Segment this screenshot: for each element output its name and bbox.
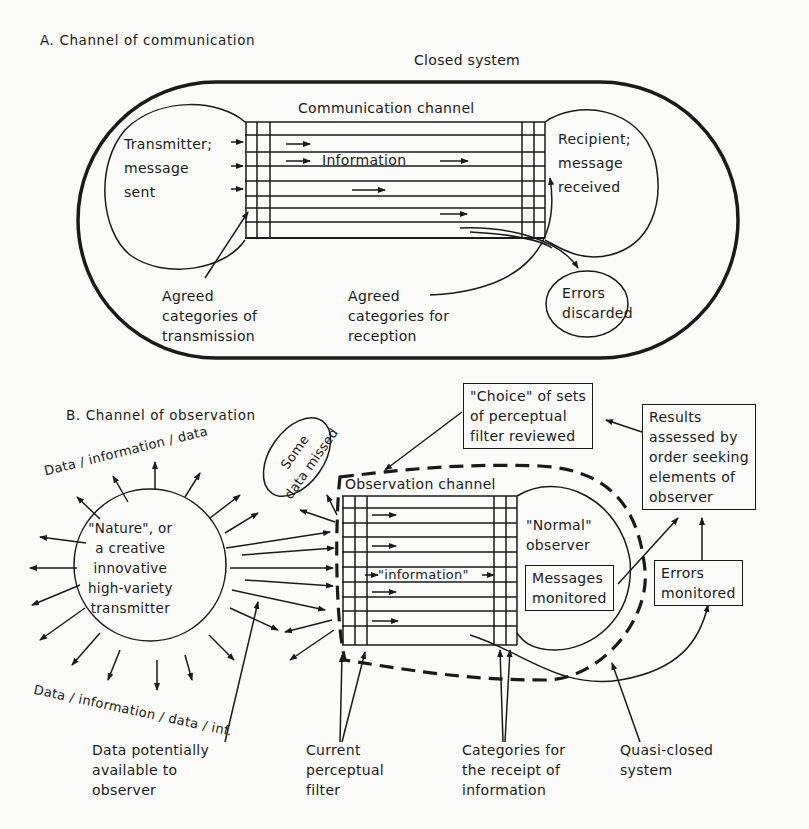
communication-channel-label: Communication channel	[298, 98, 475, 118]
quasi-closed-label: Quasi-closed system	[620, 740, 713, 780]
normal-observer-label: "Normal" observer	[526, 515, 592, 555]
closed-system-label: Closed system	[414, 50, 520, 70]
choice-reviewed-box: "Choice" of sets of perceptual filter re…	[463, 383, 593, 449]
errors-discarded-label: Errors discarded	[562, 283, 633, 323]
categories-receipt-label: Categories for the receipt of informatio…	[462, 740, 565, 800]
transmitter-label: Transmitter; message sent	[124, 132, 212, 204]
information-label: Information	[322, 150, 406, 170]
current-filter-label: Current perceptual filter	[306, 740, 384, 800]
part-b-title: B. Channel of observation	[66, 405, 256, 425]
observation-information-label: "information"	[378, 565, 469, 585]
messages-monitored-box: Messages monitored	[525, 565, 614, 611]
results-assessed-box: Results assessed by order seeking elemen…	[642, 404, 756, 510]
agreed-reception-label: Agreed categories for reception	[348, 286, 449, 346]
agreed-transmission-label: Agreed categories of transmission	[162, 286, 257, 346]
errors-monitored-box: Errors monitored	[654, 560, 743, 606]
recipient-label: Recipient; message received	[558, 127, 631, 199]
nature-label: "Nature", or a creative innovative high-…	[88, 518, 173, 618]
part-a-title: A. Channel of communication	[40, 30, 255, 50]
observation-channel-label: Observation channel	[345, 474, 496, 494]
data-potentially-label: Data potentially available to observer	[92, 740, 209, 800]
communication-channel	[245, 122, 545, 238]
